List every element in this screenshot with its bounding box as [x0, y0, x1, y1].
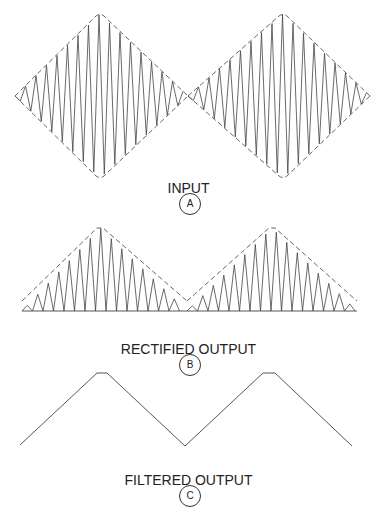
panel-a-badge: A	[179, 193, 201, 215]
am-detection-diagram	[0, 0, 377, 514]
panel-c-badge: C	[179, 485, 201, 507]
panel-b-badge: B	[179, 354, 201, 376]
filtered-waveform	[20, 373, 352, 446]
rectified-waveform	[22, 229, 355, 311]
input-waveform	[15, 14, 367, 174]
